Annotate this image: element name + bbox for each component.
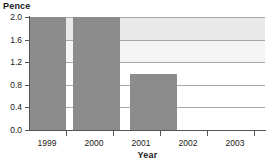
x-axis-title: Year <box>30 150 265 160</box>
bar-2000 <box>73 17 120 130</box>
x-tick-mark-5 <box>254 131 255 136</box>
x-tick-label-2002: 2002 <box>166 138 210 148</box>
x-tick-label-2000: 2000 <box>72 138 116 148</box>
y-tick-mark-1-6 <box>25 40 30 41</box>
y-tick-mark-0-4 <box>25 107 30 108</box>
y-axis-line <box>29 16 30 131</box>
x-tick-label-2001: 2001 <box>119 138 163 148</box>
x-tick-label-2003: 2003 <box>213 138 257 148</box>
y-tick-label-1-6: 1.6 <box>0 35 22 45</box>
y-axis-title: Pence <box>3 1 31 11</box>
x-tick-mark-2 <box>113 131 114 136</box>
x-tick-mark-1 <box>66 131 67 136</box>
y-tick-label-0-8: 0.8 <box>0 80 22 90</box>
x-tick-label-1999: 1999 <box>25 138 69 148</box>
y-tick-label-0-4: 0.4 <box>0 102 22 112</box>
x-tick-mark-4 <box>207 131 208 136</box>
plot-area <box>30 17 265 130</box>
y-tick-label-1-2: 1.2 <box>0 57 22 67</box>
y-tick-mark-0-0 <box>25 130 30 131</box>
y-tick-label-0-0: 0.0 <box>0 125 22 135</box>
y-tick-mark-2-0 <box>25 17 30 18</box>
x-tick-mark-3 <box>160 131 161 136</box>
bar-1999 <box>30 17 66 130</box>
bar-chart: Pence 2.0 1.6 1.2 0.8 0.4 0.0 <box>0 0 272 166</box>
y-tick-mark-1-2 <box>25 62 30 63</box>
x-axis-line <box>29 130 266 131</box>
bar-2001 <box>130 74 177 131</box>
y-tick-label-2-0: 2.0 <box>0 12 22 22</box>
y-tick-mark-0-8 <box>25 85 30 86</box>
